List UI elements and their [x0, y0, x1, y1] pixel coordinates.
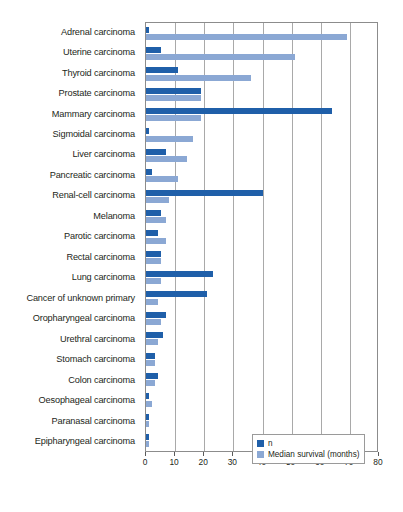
bar-median-survival: [146, 421, 149, 427]
bar-n: [146, 47, 161, 53]
axis-tick: [174, 452, 175, 456]
legend-item: Median survival (months): [257, 449, 359, 460]
category-label: Liver carcinoma: [0, 145, 140, 165]
bar-row: [146, 23, 377, 43]
bar-median-survival: [146, 319, 161, 325]
bar-row: [146, 268, 377, 288]
category-label: Epipharyngeal carcinoma: [0, 431, 140, 451]
bar-median-survival: [146, 34, 347, 40]
category-label: Paranasal carcinoma: [0, 411, 140, 431]
bar-n: [146, 434, 149, 440]
bar-row: [146, 227, 377, 247]
bar-row: [146, 145, 377, 165]
axis-tick-label: 0: [143, 457, 148, 467]
bar-row: [146, 288, 377, 308]
category-label: Renal-cell carcinoma: [0, 186, 140, 206]
bar-n: [146, 149, 166, 155]
bar-n: [146, 169, 152, 175]
bar-median-survival: [146, 278, 161, 284]
bar-row: [146, 247, 377, 267]
bar-median-survival: [146, 75, 251, 81]
bar-median-survival: [146, 115, 201, 121]
bar-median-survival: [146, 176, 178, 182]
category-label: Adrenal carcinoma: [0, 22, 140, 42]
bar-n: [146, 230, 158, 236]
bar-chart: Adrenal carcinomaUterine carcinomaThyroi…: [0, 0, 403, 512]
bar-row: [146, 84, 377, 104]
bar-n: [146, 88, 201, 94]
bar-median-survival: [146, 258, 161, 264]
category-label: Pancreatic carcinoma: [0, 165, 140, 185]
bar-median-survival: [146, 156, 187, 162]
axis-tick-label: 80: [373, 457, 382, 467]
bar-n: [146, 190, 263, 196]
category-label-column: Adrenal carcinomaUterine carcinomaThyroi…: [0, 22, 140, 452]
bar-row: [146, 64, 377, 84]
bar-median-survival: [146, 299, 158, 305]
category-label: Cancer of unknown primary: [0, 288, 140, 308]
bar-n: [146, 27, 149, 33]
bar-row: [146, 43, 377, 63]
bar-n: [146, 414, 149, 420]
category-label: Parotic carcinoma: [0, 227, 140, 247]
bar-row: [146, 125, 377, 145]
category-label: Oesophageal carcinoma: [0, 390, 140, 410]
plot-area: [145, 22, 378, 452]
legend-swatch-icon: [257, 440, 264, 447]
category-label: Uterine carcinoma: [0, 42, 140, 62]
bar-row: [146, 369, 377, 389]
axis-tick: [232, 452, 233, 456]
category-label: Lung carcinoma: [0, 268, 140, 288]
axis-tick: [145, 452, 146, 456]
legend-swatch-icon: [257, 451, 264, 458]
bar-n: [146, 353, 155, 359]
bar-row: [146, 166, 377, 186]
bar-median-survival: [146, 197, 169, 203]
legend-label: n: [268, 439, 273, 448]
bar-median-survival: [146, 380, 155, 386]
bar-n: [146, 251, 161, 257]
bar-row: [146, 206, 377, 226]
bar-n: [146, 108, 332, 114]
bar-row: [146, 186, 377, 206]
category-label: Colon carcinoma: [0, 370, 140, 390]
category-label: Stomach carcinoma: [0, 350, 140, 370]
axis-tick: [378, 452, 379, 456]
bar-median-survival: [146, 441, 149, 447]
bar-n: [146, 67, 178, 73]
bar-rows: [146, 23, 377, 451]
category-label: Thyroid carcinoma: [0, 63, 140, 83]
bar-n: [146, 373, 158, 379]
bar-row: [146, 329, 377, 349]
category-label: Melanoma: [0, 206, 140, 226]
bar-row: [146, 308, 377, 328]
bar-median-survival: [146, 238, 166, 244]
bar-n: [146, 312, 166, 318]
bar-n: [146, 128, 149, 134]
bar-median-survival: [146, 217, 166, 223]
bar-n: [146, 271, 213, 277]
bar-median-survival: [146, 339, 158, 345]
category-label: Rectal carcinoma: [0, 247, 140, 267]
category-label: Prostate carcinoma: [0, 83, 140, 103]
legend: nMedian survival (months): [252, 434, 365, 464]
bar-n: [146, 332, 163, 338]
bar-row: [146, 349, 377, 369]
bar-median-survival: [146, 95, 201, 101]
bar-median-survival: [146, 360, 155, 366]
axis-tick-label: 10: [169, 457, 178, 467]
category-label: Oropharyngeal carcinoma: [0, 309, 140, 329]
axis-tick-label: 30: [228, 457, 237, 467]
bar-row: [146, 390, 377, 410]
bar-n: [146, 393, 149, 399]
category-label: Sigmoidal carcinoma: [0, 124, 140, 144]
bar-median-survival: [146, 136, 193, 142]
bar-n: [146, 210, 161, 216]
axis-tick: [203, 452, 204, 456]
legend-item: n: [257, 438, 359, 449]
bar-row: [146, 105, 377, 125]
category-label: Mammary carcinoma: [0, 104, 140, 124]
bar-median-survival: [146, 401, 152, 407]
bar-row: [146, 410, 377, 430]
legend-label: Median survival (months): [268, 450, 359, 459]
